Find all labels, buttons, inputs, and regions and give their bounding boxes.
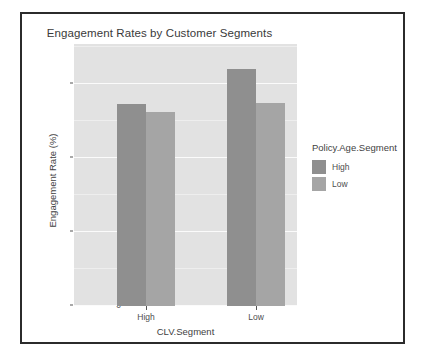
chart-panel [74,44,297,306]
legend-item-low: Low [312,177,397,191]
x-tick-mark-low [256,306,257,310]
y-tick-mark-10 [70,157,73,158]
gridline-minor-17-5 [74,46,297,47]
legend-item-high: High [312,160,397,174]
chart-plot-area: Engagement Rates by Customer Segments En… [22,14,403,342]
chart-title: Engagement Rates by Customer Segments [22,27,297,39]
legend-swatch-low-icon [312,177,326,191]
legend-label-low: Low [332,179,348,189]
bar-low-clv-low [256,103,285,306]
x-tick-label-low: Low [226,312,286,322]
gridline-major-15 [74,83,297,84]
bar-high-clv-low [227,69,256,306]
x-axis-title: CLV.Segment [74,326,297,337]
y-tick-mark-0 [70,305,73,306]
x-tick-mark-high [146,306,147,310]
y-tick-mark-15 [70,83,73,84]
y-tick-mark-5 [70,231,73,232]
figure-frame: Engagement Rates by Customer Segments En… [20,12,405,344]
bar-high-clv-high [117,104,146,306]
legend: Policy.Age.Segment High Low [312,142,397,194]
legend-label-high: High [332,162,349,172]
legend-swatch-high-icon [312,160,326,174]
bar-low-clv-high [146,112,175,306]
legend-title: Policy.Age.Segment [312,142,397,153]
x-tick-label-high: High [116,312,176,322]
y-axis-title: Engagement Rate (%) [47,91,58,271]
